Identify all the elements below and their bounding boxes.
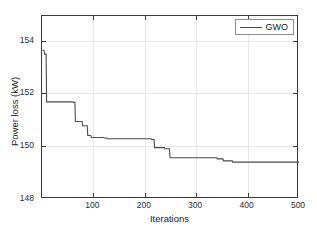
x-axis-title: Iterations [41,213,298,224]
x-tick-label-200: 200 [137,200,151,210]
y-tick-label-154: 154 [0,35,34,45]
plot-area: GWO [41,15,298,198]
x-tick-label-400: 400 [240,200,254,210]
x-tick-label-100: 100 [85,200,99,210]
gwo-line [43,50,299,162]
series-gwo [42,16,299,199]
x-tick-label-500: 500 [291,200,305,210]
convergence-chart-figure: 148 150 152 154 100 200 300 400 500 Iter… [0,0,317,237]
legend-label-gwo: GWO [266,22,289,32]
legend: GWO [235,19,295,35]
x-tick-label-300: 300 [188,200,202,210]
y-tick-label-148: 148 [0,193,34,203]
legend-line-swatch [240,27,262,28]
y-axis-title: Power loss (kW) [9,52,20,172]
